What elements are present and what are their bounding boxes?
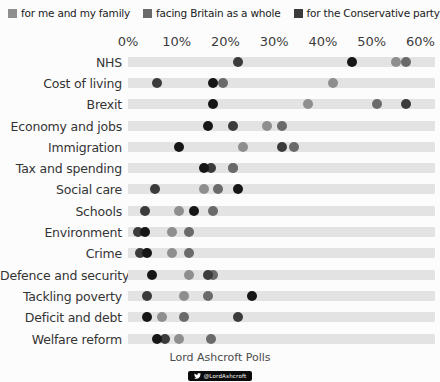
row-tackling-poverty: Tackling poverty — [0, 285, 440, 306]
category-label: Tax and spending — [0, 161, 122, 176]
twitter-handle: @LordAshcroft — [204, 373, 247, 379]
dot-for-the-labour-party — [199, 163, 209, 173]
dot-facing-britain-as-a-whole — [184, 227, 194, 237]
category-label: NHS — [0, 54, 122, 69]
x-tick-50%: 50% — [357, 34, 386, 49]
dot-for-me-and-my-family — [199, 184, 209, 194]
dot-facing-britain-as-a-whole — [289, 142, 299, 152]
category-label: Immigration — [0, 139, 122, 154]
row-band — [128, 334, 435, 344]
dot-for-the-conservative-party — [277, 142, 287, 152]
dot-for-me-and-my-family — [391, 57, 401, 67]
category-label: Crime — [0, 246, 122, 261]
dot-for-the-labour-party — [233, 184, 243, 194]
row-schools: Schools — [0, 200, 440, 221]
category-label: Welfare reform — [0, 331, 122, 346]
row-band — [128, 248, 435, 258]
category-label: Brexit — [0, 97, 122, 112]
dot-for-the-labour-party — [174, 142, 184, 152]
dot-for-me-and-my-family — [174, 334, 184, 344]
dot-facing-britain-as-a-whole — [206, 334, 216, 344]
row-band — [128, 163, 435, 173]
twitter-bird-icon — [194, 373, 201, 379]
dot-for-the-labour-party — [347, 57, 357, 67]
chart-footer: Lord Ashcroft Polls @LordAshcroft — [0, 351, 440, 382]
dot-for-me-and-my-family — [328, 78, 338, 88]
dot-for-the-conservative-party — [233, 312, 243, 322]
x-tick-10%: 10% — [162, 34, 191, 49]
dot-for-the-labour-party — [208, 99, 218, 109]
row-nhs: NHS — [0, 51, 440, 72]
row-band — [128, 184, 435, 194]
x-tick-30%: 30% — [260, 34, 289, 49]
dot-for-me-and-my-family — [179, 291, 189, 301]
dot-for-the-conservative-party — [233, 57, 243, 67]
dot-for-the-conservative-party — [401, 99, 411, 109]
category-label: Environment — [0, 225, 122, 240]
dot-for-the-labour-party — [189, 206, 199, 216]
dot-for-me-and-my-family — [167, 227, 177, 237]
row-welfare-reform: Welfare reform — [0, 328, 440, 349]
dot-facing-britain-as-a-whole — [277, 121, 287, 131]
dot-for-the-labour-party — [142, 248, 152, 258]
dot-for-me-and-my-family — [303, 99, 313, 109]
row-environment: Environment — [0, 221, 440, 242]
dot-facing-britain-as-a-whole — [208, 206, 218, 216]
row-band — [128, 78, 435, 88]
row-band — [128, 99, 435, 109]
dot-for-the-conservative-party — [150, 184, 160, 194]
dot-for-me-and-my-family — [167, 248, 177, 258]
dot-for-the-labour-party — [142, 312, 152, 322]
dot-for-me-and-my-family — [262, 121, 272, 131]
dot-for-the-conservative-party — [228, 121, 238, 131]
row-band — [128, 142, 435, 152]
x-tick-0%: 0% — [118, 34, 139, 49]
dot-facing-britain-as-a-whole — [184, 248, 194, 258]
row-band — [128, 57, 435, 67]
dot-for-the-conservative-party — [203, 270, 213, 280]
dot-for-the-conservative-party — [140, 206, 150, 216]
row-immigration: Immigration — [0, 136, 440, 157]
row-band — [128, 227, 435, 237]
category-label: Tackling poverty — [0, 288, 122, 303]
dot-for-the-conservative-party — [142, 291, 152, 301]
row-band — [128, 291, 435, 301]
dot-for-me-and-my-family — [174, 206, 184, 216]
dot-facing-britain-as-a-whole — [179, 312, 189, 322]
dot-for-the-labour-party — [203, 121, 213, 131]
row-social-care: Social care — [0, 179, 440, 200]
row-deficit-and-debt: Deficit and debt — [0, 307, 440, 328]
source-label: Lord Ashcroft Polls — [0, 351, 440, 364]
row-economy-and-jobs: Economy and jobs — [0, 115, 440, 136]
dot-for-the-labour-party — [208, 78, 218, 88]
row-band — [128, 121, 435, 131]
dot-for-the-labour-party — [140, 227, 150, 237]
dot-facing-britain-as-a-whole — [218, 78, 228, 88]
dot-facing-britain-as-a-whole — [401, 57, 411, 67]
dot-for-the-labour-party — [147, 270, 157, 280]
category-label: Social care — [0, 182, 122, 197]
category-label: Economy and jobs — [0, 118, 122, 133]
dot-for-me-and-my-family — [238, 142, 248, 152]
dot-facing-britain-as-a-whole — [228, 163, 238, 173]
row-band — [128, 206, 435, 216]
row-defence-and-security: Defence and security — [0, 264, 440, 285]
category-label: Cost of living — [0, 75, 122, 90]
row-band — [128, 270, 435, 280]
dot-plot: 0%10%20%30%40%50%60% NHSCost of livingBr… — [0, 0, 440, 382]
category-label: Schools — [0, 203, 122, 218]
row-tax-and-spending: Tax and spending — [0, 158, 440, 179]
row-cost-of-living: Cost of living — [0, 72, 440, 93]
x-tick-60%: 60% — [406, 34, 435, 49]
dot-facing-britain-as-a-whole — [213, 184, 223, 194]
row-band — [128, 312, 435, 322]
dot-facing-britain-as-a-whole — [372, 99, 382, 109]
dot-for-the-labour-party — [152, 334, 162, 344]
x-tick-20%: 20% — [211, 34, 240, 49]
dot-facing-britain-as-a-whole — [203, 291, 213, 301]
twitter-badge: @LordAshcroft — [188, 371, 253, 381]
row-brexit: Brexit — [0, 94, 440, 115]
dot-for-the-labour-party — [247, 291, 257, 301]
dot-for-me-and-my-family — [184, 270, 194, 280]
category-label: Deficit and debt — [0, 310, 122, 325]
